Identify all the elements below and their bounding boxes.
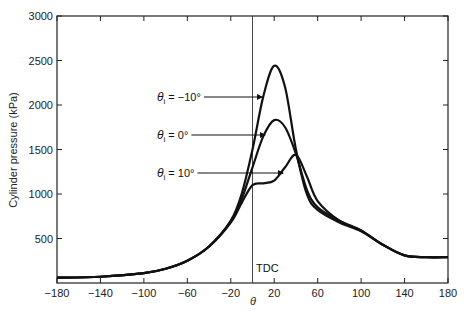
x-tick-label: 60 [312,287,324,299]
x-tick-label: 180 [439,287,457,299]
y-tick-label: 3000 [29,10,53,22]
y-tick-label: 2000 [29,99,53,111]
x-axis-label: θ [250,295,256,307]
annotation-label-0: θi = −10° [157,90,201,106]
y-axis-label: Cylinder pressure (kPa) [7,92,19,208]
tdc-label: TDC [256,262,279,274]
x-tick-label: −20 [221,287,240,299]
x-tick-label: 20 [268,287,280,299]
x-tick-label: −140 [88,287,113,299]
x-tick-label: −100 [131,287,156,299]
cylinder-pressure-chart: −180−140−100−60−202060100140180500100015… [0,0,467,320]
y-tick-label: 1000 [29,188,53,200]
x-tick-label: 100 [352,287,370,299]
annotation-label-1: θi = 0° [157,128,188,144]
axis-ticks: −180−140−100−60−202060100140180500100015… [29,10,458,299]
x-tick-label: 140 [395,287,413,299]
x-tick-label: −60 [178,287,197,299]
y-tick-label: 1500 [29,144,53,156]
annotation-label-2: θi = 10° [157,166,194,182]
x-tick-label: −180 [45,287,70,299]
y-tick-label: 500 [35,233,53,245]
y-tick-label: 2500 [29,55,53,67]
